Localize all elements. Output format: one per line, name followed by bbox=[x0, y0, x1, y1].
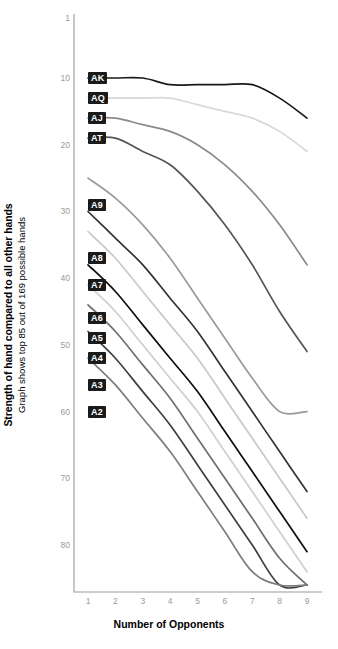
series-label-a3: A3 bbox=[88, 379, 106, 391]
series-line-a6 bbox=[88, 265, 307, 552]
series-group bbox=[88, 78, 307, 588]
series-line-a5 bbox=[88, 285, 307, 572]
series-label-a7: A7 bbox=[88, 279, 106, 291]
series-label-a8: A8 bbox=[88, 252, 106, 264]
series-label-aj: AJ bbox=[88, 112, 106, 124]
chart-container: Strength of hand compared to all other h… bbox=[0, 0, 338, 649]
series-line-a3 bbox=[88, 332, 307, 588]
series-line-a8 bbox=[88, 212, 307, 492]
series-label-a2: A2 bbox=[88, 406, 106, 418]
series-label-a9: A9 bbox=[88, 199, 106, 211]
series-label-a6: A6 bbox=[88, 312, 106, 324]
series-label-ak: AK bbox=[88, 72, 107, 84]
series-line-a9 bbox=[88, 178, 307, 414]
series-label-at: AT bbox=[88, 132, 106, 144]
series-label-a4: A4 bbox=[88, 352, 106, 364]
series-line-a7 bbox=[88, 232, 307, 519]
plot-area bbox=[0, 0, 338, 649]
series-label-a5: A5 bbox=[88, 332, 106, 344]
x-axis-title: Number of Opponents bbox=[0, 618, 338, 630]
series-label-aq: AQ bbox=[88, 92, 108, 104]
series-line-aq bbox=[88, 98, 307, 152]
